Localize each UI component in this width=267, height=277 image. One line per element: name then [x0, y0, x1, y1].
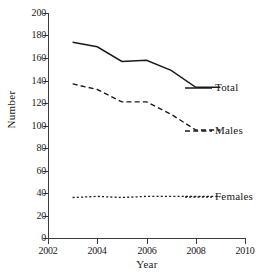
plot-area: [0, 0, 267, 277]
series-line-males: [73, 84, 221, 130]
series-label-males: Males: [215, 125, 243, 136]
line-chart: 200 180 160 140 120 100 80 60 40 20 0 20…: [0, 0, 267, 277]
series-label-females: Females: [215, 191, 253, 202]
series-label-total: Total: [215, 82, 238, 93]
series-line-total: [73, 42, 221, 87]
